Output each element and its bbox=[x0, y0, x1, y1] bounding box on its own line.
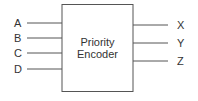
output-label-x: X bbox=[177, 19, 185, 31]
output-label-z: Z bbox=[177, 55, 184, 67]
block-title-line1: Priority bbox=[80, 36, 115, 48]
input-label-b: B bbox=[14, 32, 21, 44]
output-label-y: Y bbox=[177, 37, 185, 49]
input-label-a: A bbox=[14, 17, 22, 29]
input-label-d: D bbox=[14, 63, 22, 75]
priority-encoder-diagram: Priority Encoder A B C D X Y Z bbox=[0, 0, 198, 101]
input-label-c: C bbox=[14, 47, 22, 59]
block-title-line2: Encoder bbox=[77, 48, 118, 60]
